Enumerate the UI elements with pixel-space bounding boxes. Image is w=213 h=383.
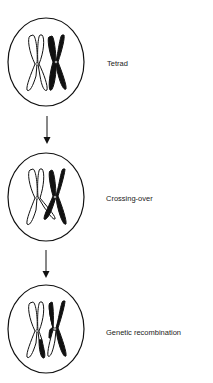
centromere: [54, 196, 57, 199]
cell-circle: [8, 18, 84, 106]
chromosome-segment-dark-icon: [39, 340, 45, 358]
centromere: [54, 328, 57, 331]
cell-circle: [8, 285, 84, 373]
arrow-down-icon: [43, 250, 50, 278]
cell-circle: [8, 153, 84, 241]
stage-crossing-over: [8, 153, 84, 241]
stage-tetrad: [8, 18, 84, 106]
centromere: [36, 197, 39, 200]
label-crossing-over: Crossing-over: [106, 195, 153, 203]
centromere: [36, 330, 39, 333]
diagram-canvas: [0, 0, 213, 383]
centromere: [55, 61, 58, 64]
label-genetic-recombination: Genetic recombination: [106, 329, 181, 337]
label-tetrad: Tetrad: [107, 60, 128, 68]
stage-genetic-recombination: [8, 285, 84, 373]
centromere: [36, 63, 39, 66]
arrow-down-icon: [44, 116, 51, 144]
